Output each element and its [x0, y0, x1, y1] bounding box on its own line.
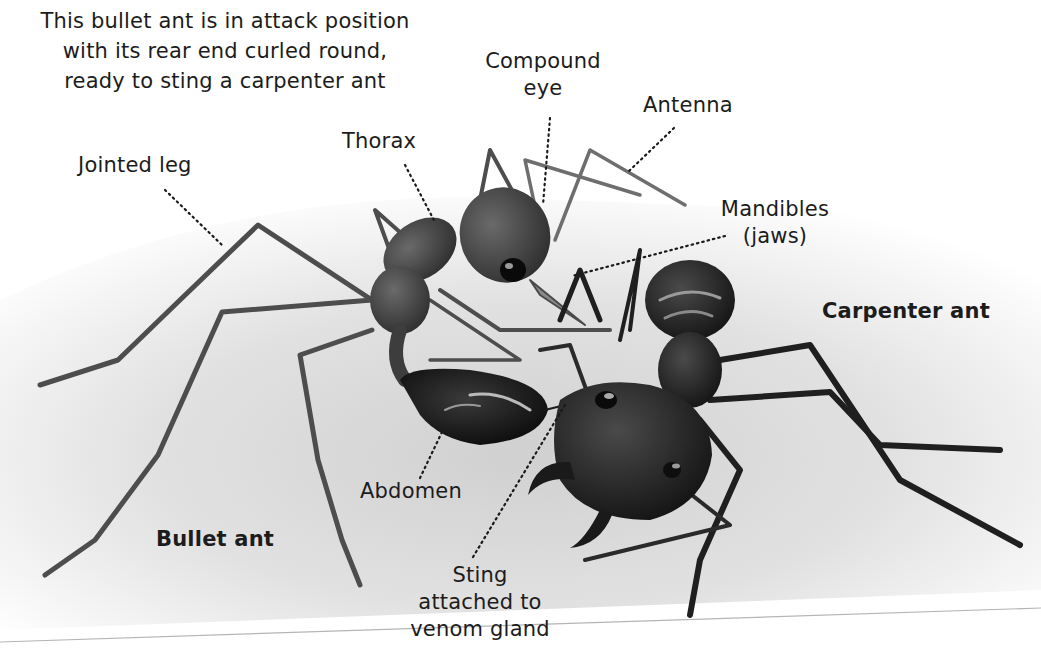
- label-jointed-leg: Jointed leg: [78, 152, 192, 179]
- caption-line-1: This bullet ant is in attack position: [0, 6, 450, 36]
- label-thorax: Thorax: [342, 128, 416, 155]
- label-compound-eye: Compound eye: [476, 48, 610, 102]
- label-sting: Sting attached to venom gland: [410, 562, 550, 643]
- label-mandibles: Mandibles (jaws): [710, 196, 840, 250]
- bullet-ant-compound-eye: [500, 258, 526, 282]
- compound-eye-line-1: Compound: [476, 48, 610, 75]
- sting-line-3: venom gland: [410, 616, 550, 643]
- sting-line-1: Sting: [410, 562, 550, 589]
- leader-antenna: [628, 128, 674, 172]
- mandibles-line-2: (jaws): [710, 223, 840, 250]
- caption-line-2: with its rear end curled round,: [0, 36, 450, 66]
- label-bullet-ant: Bullet ant: [156, 526, 274, 553]
- compound-eye-line-2: eye: [476, 75, 610, 102]
- label-carpenter-ant: Carpenter ant: [822, 298, 990, 325]
- caption-line-3: ready to sting a carpenter ant: [0, 66, 450, 96]
- label-abdomen: Abdomen: [360, 478, 462, 505]
- leader-compound-eye: [543, 118, 550, 205]
- caption: This bullet ant is in attack position wi…: [0, 6, 450, 96]
- sting-line-2: attached to: [410, 589, 550, 616]
- label-antenna: Antenna: [643, 92, 733, 119]
- mandibles-line-1: Mandibles: [710, 196, 840, 223]
